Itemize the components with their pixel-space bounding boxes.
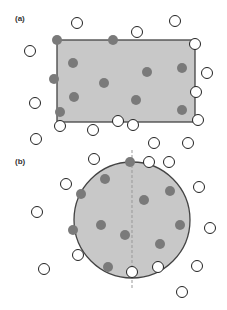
filled-point: [175, 220, 185, 230]
open-point: [164, 157, 175, 168]
open-point: [170, 16, 181, 27]
filled-point: [103, 262, 113, 272]
open-point: [25, 46, 36, 57]
open-point: [194, 182, 205, 193]
open-point: [88, 125, 99, 136]
open-point: [191, 87, 202, 98]
open-point: [55, 121, 66, 132]
open-point: [177, 287, 188, 298]
filled-point: [49, 74, 59, 84]
open-point: [144, 157, 155, 168]
open-point: [132, 27, 143, 38]
panel-label-b: (b): [15, 157, 25, 166]
filled-point: [139, 195, 149, 205]
filled-point: [125, 157, 135, 167]
filled-point: [131, 95, 141, 105]
open-point: [31, 134, 42, 145]
open-point: [39, 264, 50, 275]
open-point: [72, 18, 83, 29]
filled-point: [100, 174, 110, 184]
open-point: [127, 267, 138, 278]
panel-label-a: (a): [15, 14, 25, 23]
filled-point: [165, 186, 175, 196]
open-point: [205, 223, 216, 234]
filled-point: [108, 35, 118, 45]
open-point: [89, 154, 100, 165]
open-point: [32, 207, 43, 218]
filled-point: [99, 78, 109, 88]
filled-point: [177, 63, 187, 73]
filled-point: [177, 105, 187, 115]
filled-point: [52, 35, 62, 45]
filled-point: [69, 92, 79, 102]
open-point: [30, 98, 41, 109]
filled-point: [68, 225, 78, 235]
open-point: [183, 138, 194, 149]
filled-point: [142, 67, 152, 77]
open-point: [190, 39, 201, 50]
open-point: [113, 116, 124, 127]
open-point: [73, 250, 84, 261]
filled-point: [155, 239, 165, 249]
region-rectangle-a: [57, 40, 195, 122]
open-point: [128, 120, 139, 131]
filled-point: [96, 220, 106, 230]
open-point: [149, 138, 160, 149]
filled-point: [68, 58, 78, 68]
filled-point: [55, 107, 65, 117]
filled-point: [120, 230, 130, 240]
filled-point: [76, 189, 86, 199]
open-point: [153, 262, 164, 273]
open-point: [202, 68, 213, 79]
open-point: [61, 179, 72, 190]
open-point: [193, 115, 204, 126]
diagram-canvas: [0, 0, 227, 310]
open-point: [192, 261, 203, 272]
